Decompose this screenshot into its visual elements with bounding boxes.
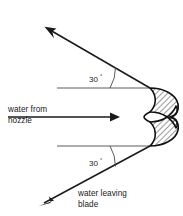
pelton-blade-figure: 30 ° 30 ° water from nozzle water leavin…	[0, 0, 183, 216]
upper-angle-degree-symbol: °	[100, 73, 102, 79]
lower-angle-label: 30 °	[89, 157, 102, 168]
upper-angle-value: 30	[89, 75, 98, 84]
water-from-nozzle-label: water from nozzle	[7, 105, 47, 125]
water-leaving-blade-line2: blade	[78, 200, 99, 209]
lower-angle-value: 30	[89, 159, 98, 168]
blade-splitter-ridge	[144, 112, 150, 122]
lower-angle-degree-symbol: °	[100, 157, 102, 163]
blade-group	[144, 88, 178, 146]
diagram-canvas: 30 ° 30 ° water from nozzle water leavin…	[0, 0, 183, 216]
water-leaving-blade-line1: water leaving	[77, 189, 127, 198]
water-leaving-blade-label: water leaving blade	[77, 189, 127, 209]
upper-angle-label: 30 °	[89, 73, 102, 84]
lower-angle-arc	[110, 146, 116, 167]
upper-angle-arc	[110, 68, 116, 89]
water-from-nozzle-line1: water from	[7, 105, 47, 114]
water-from-nozzle-line2: nozzle	[8, 116, 32, 125]
